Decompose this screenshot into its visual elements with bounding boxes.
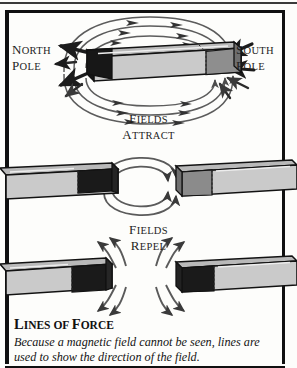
caption-block: LINES OF FORCE Because a magnetic field … [14, 316, 280, 365]
label-north-pole: NORTH POLE [12, 41, 51, 74]
label-fields-repel-line2: REPEL [0, 237, 297, 253]
panel-attracting-pair [0, 158, 297, 215]
label-south-pole: SOUTH POLE [236, 41, 274, 74]
bar-magnet-left-attract [0, 163, 118, 199]
caption-body: Because a magnetic field cannot be seen,… [14, 335, 280, 365]
label-south-pole-line2: POLE [236, 57, 274, 73]
label-south-pole-line1: SOUTH [236, 41, 274, 57]
bar-magnet-right-attract [176, 160, 297, 196]
label-north-pole-line1: NORTH [12, 41, 51, 57]
bar-magnet-right-repel [176, 256, 297, 292]
label-fields-attract-line1: FIELDS [0, 110, 297, 126]
label-fields-repel: FIELDS REPEL [0, 221, 297, 254]
label-fields-attract: FIELDS ATTRACT [0, 110, 297, 143]
bar-magnet-single [87, 42, 241, 81]
label-fields-repel-line1: FIELDS [0, 221, 297, 237]
caption-title: LINES OF FORCE [14, 316, 280, 332]
bar-magnet-left-repel [0, 258, 112, 295]
label-north-pole-line2: POLE [12, 57, 51, 73]
label-fields-attract-line2: ATTRACT [0, 126, 297, 142]
figure-page: NORTH POLE SOUTH POLE FIELDS ATTRACT FIE… [0, 0, 297, 368]
south-pole-arrows-small [220, 78, 248, 98]
field-line-arrowheads-upper [110, 20, 194, 48]
